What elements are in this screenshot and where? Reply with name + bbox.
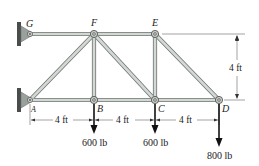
truss-diagram: G F E A B C D 4 ft 4 ft 4 ft 4 ft <box>0 0 259 166</box>
node-label-b: B <box>97 103 103 114</box>
node-label-e: E <box>151 17 158 28</box>
load-label-d: 800 lb <box>207 150 232 161</box>
load-label-c: 600 lb <box>143 137 168 148</box>
joint-e-icon <box>151 30 158 37</box>
node-label-d: D <box>221 103 230 114</box>
joint-g-icon <box>27 31 32 36</box>
joint-f-icon <box>90 30 97 37</box>
span-dimension-bc: 4 ft <box>116 115 129 125</box>
span-dimension-cd: 4 ft <box>179 115 192 125</box>
span-dimension-ab: 4 ft <box>55 115 68 125</box>
truss-members <box>30 34 219 100</box>
node-label-g: G <box>26 18 33 29</box>
load-label-b: 600 lb <box>82 137 107 148</box>
joint-a-icon <box>27 97 32 102</box>
height-dimension-label: 4 ft <box>229 63 242 73</box>
node-label-f: F <box>90 17 98 28</box>
node-label-c: C <box>158 103 165 114</box>
node-label-a: A <box>30 105 36 114</box>
